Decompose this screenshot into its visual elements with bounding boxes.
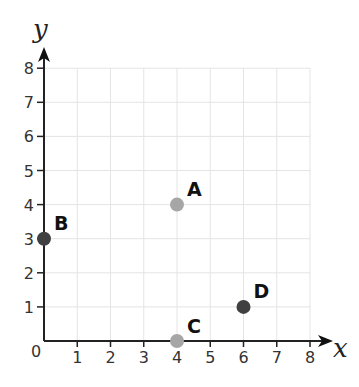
y-tick-label: 2 [24, 264, 34, 283]
coordinate-plane: 01234567812345678 x y ABCD [0, 0, 359, 387]
y-tick-label: 4 [24, 196, 34, 215]
x-tick-label: 8 [305, 348, 315, 367]
x-tick-label: 7 [272, 348, 282, 367]
x-tick-label: 3 [139, 348, 149, 367]
x-tick-label: 2 [105, 348, 115, 367]
x-axis-label: x [333, 333, 348, 363]
axes [38, 47, 333, 347]
x-tick-label: 1 [72, 348, 82, 367]
y-tick-label: 7 [24, 93, 34, 112]
y-tick-label: 6 [24, 127, 34, 146]
point-marker-icon [170, 198, 184, 212]
point-d: D [237, 280, 270, 314]
point-marker-icon [237, 300, 251, 314]
point-c: C [170, 315, 201, 348]
point-label: A [187, 178, 202, 200]
x-tick-label: 6 [238, 348, 248, 367]
y-tick-label: 8 [24, 59, 34, 78]
point-b: B [37, 212, 68, 246]
y-axis-label: y [32, 14, 48, 44]
y-tick-label: 3 [24, 230, 34, 249]
x-tick-label: 0 [31, 342, 41, 361]
x-tick-label: 4 [172, 348, 182, 367]
y-tick-label: 1 [24, 298, 34, 317]
x-tick-label: 5 [205, 348, 215, 367]
y-tick-label: 5 [24, 162, 34, 181]
point-label: D [254, 280, 270, 302]
data-points: ABCD [37, 178, 269, 348]
point-label: B [54, 212, 68, 234]
point-a: A [170, 178, 202, 212]
point-marker-icon [170, 334, 184, 348]
point-marker-icon [37, 232, 51, 246]
point-label: C [187, 315, 201, 337]
